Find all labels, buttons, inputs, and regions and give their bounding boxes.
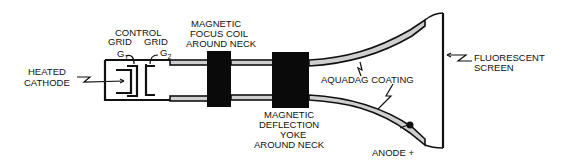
anode-label: ANODE + <box>372 147 414 158</box>
grid-label: GRID <box>144 36 168 47</box>
deflection-yoke-label-line4: AROUND NECK <box>254 139 325 150</box>
control-grid-label-line2: GRID <box>108 36 132 47</box>
g2-label: G2 <box>160 47 171 60</box>
aquadag-label: AQUADAG COATING <box>321 74 414 85</box>
crt-diagram: HEATED CATHODE CONTROL GRID GRID G1 G2 M… <box>0 0 564 164</box>
heated-cathode-label-line1: HEATED <box>28 66 66 77</box>
heated-cathode-label-line2: CATHODE <box>24 77 70 88</box>
fluorescent-screen-label-line2: SCREEN <box>474 62 514 73</box>
deflection-yoke <box>272 52 309 108</box>
grid-g2 <box>146 64 155 95</box>
focus-coil-label-line3: AROUND NECK <box>186 38 257 49</box>
focus-coil <box>207 51 231 107</box>
